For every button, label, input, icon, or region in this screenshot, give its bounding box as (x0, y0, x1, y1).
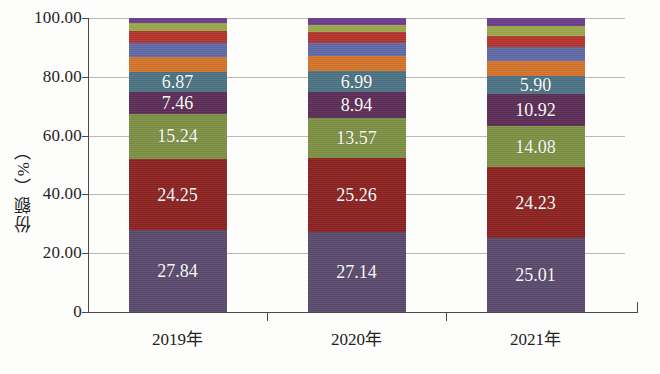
bar-segment[interactable] (129, 43, 227, 57)
y-axis-title: 份额（%） (8, 0, 38, 374)
y-axis-tick (82, 253, 89, 254)
segment-value-label: 25.26 (336, 186, 377, 204)
bar-segment[interactable] (129, 31, 227, 43)
segment-texture (129, 92, 227, 114)
y-axis-tick-label: 0 (73, 302, 82, 322)
segment-texture (308, 43, 406, 56)
segment-texture (308, 18, 406, 25)
y-axis-tick-label: 80.00 (43, 67, 82, 87)
bar-segment[interactable] (129, 23, 227, 31)
bar-segment[interactable] (487, 47, 585, 61)
segment-texture (129, 159, 227, 230)
segment-texture (129, 31, 227, 43)
segment-texture (129, 230, 227, 312)
segment-value-label: 10.92 (515, 101, 556, 119)
bar-segment[interactable]: 25.01 (487, 238, 585, 312)
bar-segment[interactable]: 15.24 (129, 114, 227, 159)
bar-segment[interactable] (308, 25, 406, 32)
segment-texture (129, 72, 227, 92)
y-axis-tick (82, 136, 89, 137)
segment-texture (308, 158, 406, 232)
x-axis-tick-label: 2020年 (267, 325, 446, 350)
segment-texture (308, 71, 406, 92)
segment-value-label: 15.24 (157, 127, 198, 145)
bar-segment[interactable] (129, 18, 227, 23)
bar-segment[interactable]: 27.14 (308, 232, 406, 312)
segment-texture (129, 43, 227, 57)
segment-value-label: 25.01 (515, 266, 556, 284)
bar-stack[interactable]: 27.8424.2515.247.466.87 (129, 18, 227, 312)
segment-texture (487, 126, 585, 167)
x-axis-tick (267, 312, 268, 321)
bar-segment[interactable] (487, 26, 585, 35)
bar-segment[interactable] (487, 36, 585, 47)
segment-texture (129, 114, 227, 159)
segment-texture (129, 23, 227, 31)
y-axis-tick-label: 40.00 (43, 184, 82, 204)
segment-texture (487, 94, 585, 126)
bar-segment[interactable] (308, 56, 406, 71)
y-axis-tick-label: 60.00 (43, 126, 82, 146)
bar-segment[interactable] (129, 57, 227, 72)
segment-texture (487, 26, 585, 35)
bar-segment[interactable] (487, 61, 585, 77)
segment-value-label: 24.25 (157, 186, 198, 204)
bar-segment[interactable]: 7.46 (129, 92, 227, 114)
segment-value-label: 8.94 (341, 96, 373, 114)
segment-texture (487, 36, 585, 47)
bar-segment[interactable]: 6.87 (129, 72, 227, 92)
y-axis-tick (82, 194, 89, 195)
segment-value-label: 27.14 (336, 263, 377, 281)
bar-stack[interactable]: 25.0124.2314.0810.925.90 (487, 18, 585, 312)
segment-texture (308, 118, 406, 158)
x-axis-line (88, 312, 638, 313)
bar-segment[interactable]: 13.57 (308, 118, 406, 158)
bar-segment[interactable] (308, 43, 406, 56)
segment-value-label: 6.87 (162, 73, 194, 91)
segment-value-label: 5.90 (520, 76, 552, 94)
segment-value-label: 7.46 (162, 94, 194, 112)
bar-segment[interactable]: 14.08 (487, 126, 585, 167)
y-axis-tick (82, 312, 89, 313)
y-axis-tick-label: 100.00 (34, 8, 82, 28)
segment-texture (487, 18, 585, 26)
segment-texture (487, 238, 585, 312)
bar-segment[interactable]: 27.84 (129, 230, 227, 312)
segment-value-label: 14.08 (515, 138, 556, 156)
segment-value-label: 13.57 (336, 129, 377, 147)
y-axis-tick-label: 20.00 (43, 243, 82, 263)
segment-texture (487, 167, 585, 238)
x-axis-tick-label: 2019年 (88, 325, 267, 350)
stacked-bar-chart: 份额（%） 27.8424.2515.247.466.8727.1425.261… (0, 0, 660, 374)
bar-segment[interactable]: 24.25 (129, 159, 227, 230)
bar-segment[interactable] (308, 32, 406, 43)
bar-segment[interactable]: 24.23 (487, 167, 585, 238)
bar-segment[interactable]: 6.99 (308, 71, 406, 92)
segment-texture (129, 18, 227, 23)
bar-segment[interactable]: 5.90 (487, 76, 585, 93)
y-axis-tick (82, 77, 89, 78)
segment-texture (308, 92, 406, 118)
bar-segment[interactable]: 10.92 (487, 94, 585, 126)
segment-value-label: 6.99 (341, 73, 373, 91)
y-axis-title-label: 份额（%） (11, 141, 36, 233)
plot-area: 27.8424.2515.247.466.8727.1425.2613.578.… (88, 18, 625, 312)
x-axis-end-tick (637, 302, 638, 313)
segment-value-label: 24.23 (515, 194, 556, 212)
segment-texture (308, 25, 406, 32)
bar-segment[interactable] (308, 18, 406, 25)
bar-segment[interactable] (487, 18, 585, 26)
bar-segment[interactable]: 8.94 (308, 92, 406, 118)
segment-texture (308, 232, 406, 312)
segment-texture (308, 56, 406, 71)
bar-segment[interactable]: 25.26 (308, 158, 406, 232)
x-axis-tick (446, 312, 447, 321)
bar-stack[interactable]: 27.1425.2613.578.946.99 (308, 18, 406, 312)
segment-texture (308, 32, 406, 43)
segment-value-label: 27.84 (157, 262, 198, 280)
x-axis-tick-label: 2021年 (446, 325, 625, 350)
segment-texture (487, 76, 585, 93)
y-axis-tick (82, 18, 89, 19)
segment-texture (487, 61, 585, 77)
segment-texture (129, 57, 227, 72)
